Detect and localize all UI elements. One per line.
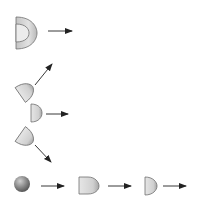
- diagram-canvas: [0, 0, 198, 204]
- half-disk-mid-shape: [31, 104, 42, 122]
- arrow-4: [35, 145, 51, 162]
- bullet-shape: [79, 177, 99, 194]
- tilted-dome-up-shape: [15, 79, 38, 102]
- hollow-dome-shape: [16, 17, 37, 49]
- tilted-dome-down-shape: [15, 127, 38, 150]
- arrow-2: [35, 64, 52, 85]
- half-disk-end-shape: [145, 177, 157, 195]
- sphere-shape: [14, 176, 30, 192]
